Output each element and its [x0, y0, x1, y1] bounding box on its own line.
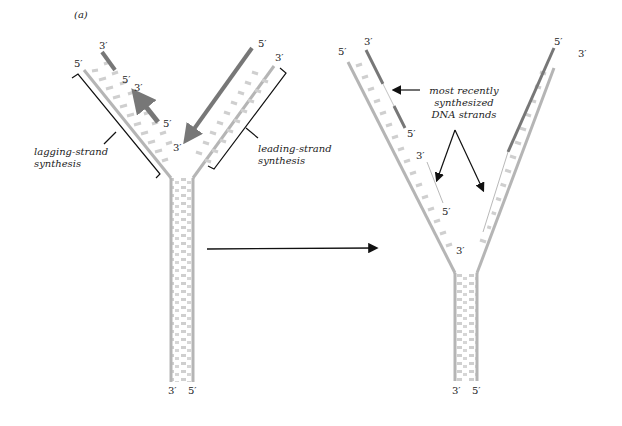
annotation-label: most recently — [424, 85, 504, 96]
stem-base-pairs — [170, 178, 194, 382]
transition-arrow — [207, 248, 376, 249]
annotation-arrow-2 — [437, 130, 455, 180]
label-5prime: 5′ — [407, 128, 416, 139]
label-5prime: 5′ — [122, 74, 131, 85]
left-fork — [72, 48, 286, 382]
label-5prime: 5′ — [338, 46, 347, 57]
label-3prime: 3′ — [134, 82, 143, 93]
left-arm — [84, 52, 172, 178]
panel-label: (a) — [74, 9, 88, 20]
label-3prime: 3′ — [173, 142, 182, 153]
label-3prime: 3′ — [456, 245, 465, 256]
label-5prime: 5′ — [163, 118, 172, 129]
label-3prime: 3′ — [578, 48, 587, 59]
leading-strand-old — [508, 48, 554, 152]
label-5prime: 5′ — [258, 38, 267, 49]
okazaki-fragment-old — [102, 52, 115, 70]
lagging-bracket — [72, 74, 160, 178]
label-3prime: 3′ — [416, 150, 425, 161]
lagging-strand-label: synthesis — [34, 158, 81, 169]
annotation-label: DNA strands — [424, 109, 504, 120]
annotation-label: synthesized — [424, 97, 504, 108]
label-5prime: 5′ — [472, 385, 481, 396]
leading-strand-label: leading-strand — [258, 143, 332, 154]
label-3prime: 3′ — [168, 385, 177, 396]
replication-fork-diagram — [0, 0, 622, 426]
label-5prime: 5′ — [554, 36, 563, 47]
label-3prime: 3′ — [99, 40, 108, 51]
leading-strand-label: synthesis — [258, 155, 305, 166]
label-3prime: 3′ — [364, 36, 373, 47]
label-5prime: 5′ — [188, 385, 197, 396]
label-5prime: 5′ — [442, 206, 451, 217]
label-5prime: 5′ — [74, 58, 83, 69]
label-3prime: 3′ — [275, 52, 284, 63]
label-3prime: 3′ — [452, 385, 461, 396]
lagging-strand-label: lagging-strand — [34, 146, 108, 157]
okazaki-fragment-arrow — [139, 98, 158, 122]
annotation-arrow-3 — [455, 130, 483, 190]
